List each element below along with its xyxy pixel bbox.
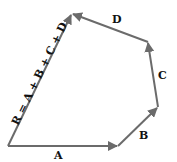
vector-c-label: C [158, 69, 167, 82]
vector-b-label: B [139, 129, 148, 142]
vector-b-arrow [118, 108, 157, 146]
vector-polygon-diagram: A B C D R = A + B + C + D [0, 0, 177, 162]
vector-d-label: D [112, 13, 122, 26]
vector-d-arrow [73, 14, 148, 42]
resultant-r-label: R = A + B + C + D [9, 20, 70, 127]
vector-c-arrow [148, 43, 158, 107]
vector-a-label: A [53, 149, 63, 162]
